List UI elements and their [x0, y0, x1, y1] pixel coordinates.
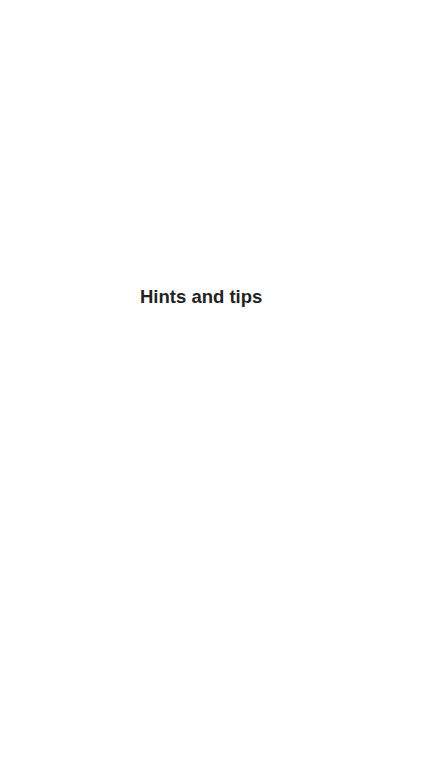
page-title: Hints and tips — [140, 285, 262, 309]
hints-screen: Hints and tips — [0, 0, 430, 768]
